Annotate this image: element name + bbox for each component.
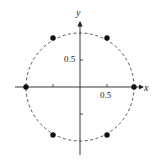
x-tick-label: 0.5 — [100, 90, 112, 100]
point-300 — [104, 132, 109, 137]
x-axis-label: x — [143, 82, 149, 93]
point-60 — [104, 35, 109, 40]
point-240 — [50, 132, 55, 137]
unit-circle-diagram: x y 0.5 0.5 — [0, 0, 152, 164]
point-180 — [23, 84, 28, 89]
point-120 — [50, 35, 55, 40]
point-0 — [131, 84, 136, 89]
y-tick-label: 0.5 — [64, 54, 76, 64]
y-axis-label: y — [75, 7, 81, 18]
